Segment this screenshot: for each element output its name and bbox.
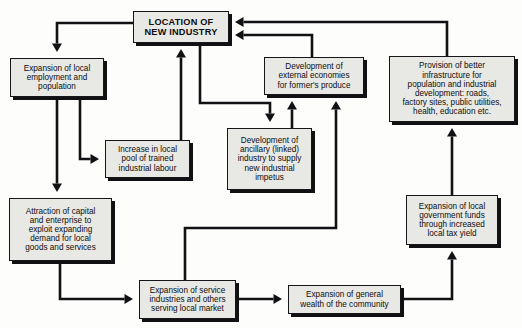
node-location-of-new-industry[interactable]: LOCATION OF NEW INDUSTRY [133,11,229,43]
arrowhead [331,101,341,110]
arrowhead [287,101,297,110]
edge-govfunds-to-infrastructure [447,128,457,195]
arrowhead [274,294,283,304]
node-label: Development of external economies for fo… [268,62,360,90]
edge-employment-to-capital [52,100,62,192]
node-expansion-of-local-employment[interactable]: Expansion of local employment and popula… [10,58,104,97]
node-provision-of-better-infrastructure[interactable]: Provision of better infrastructure for p… [389,56,515,122]
node-label: LOCATION OF NEW INDUSTRY [137,17,225,38]
edge-capital-to-services [60,261,133,304]
edge-line [200,43,270,114]
edge-line [60,261,125,299]
node-label: Development of ancillary (linked) indust… [231,136,308,182]
node-label: Attraction of capital and enterprise to … [13,207,108,253]
arrowhead [235,30,244,40]
edge-line [244,35,313,57]
arrowhead [52,44,62,53]
edge-infrastructure-to-location [235,17,447,56]
node-increase-in-local-pool-of-trained-labour[interactable]: Increase in local pool of trained indust… [105,140,190,178]
node-label: Expansion of service industries and othe… [143,286,232,314]
node-development-of-ancillary-industry[interactable]: Development of ancillary (linked) indust… [227,128,312,190]
arrowhead [176,49,186,58]
node-label: Expansion of local government funds thro… [410,202,494,239]
edge-labour-to-location [176,49,186,140]
arrowhead [52,184,62,193]
edge-line [57,23,133,44]
edge-line [244,22,448,56]
arrowhead [447,251,457,260]
edge-employment-to-labour [80,100,99,164]
edge-location-to-employment [52,23,133,52]
arrowhead [265,114,275,123]
edge-line [401,260,452,300]
arrowhead [447,128,457,137]
node-label: Expansion of general wealth of the commu… [292,290,397,308]
edge-line [80,100,91,159]
flowchart-canvas: LOCATION OF NEW INDUSTRYExpansion of loc… [0,0,522,328]
node-expansion-of-service-industries[interactable]: Expansion of service industries and othe… [139,280,236,319]
arrowhead [91,154,100,164]
edge-ancillary-to-external [287,101,297,128]
edge-wealth-to-govfunds [401,251,457,299]
node-label: Increase in local pool of trained indust… [109,145,186,173]
node-attraction-of-capital-and-enterprise[interactable]: Attraction of capital and enterprise to … [9,198,112,261]
node-label: Expansion of local employment and popula… [14,64,100,92]
node-development-of-external-economies[interactable]: Development of external economies for fo… [264,57,364,95]
node-expansion-of-local-government-funds[interactable]: Expansion of local government funds thro… [406,195,498,245]
edge-external-to-location [235,30,312,57]
node-expansion-of-general-wealth[interactable]: Expansion of general wealth of the commu… [288,285,401,314]
arrowhead [125,294,134,304]
node-label: Provision of better infrastructure for p… [393,61,511,116]
edge-services-to-wealth [239,294,282,304]
arrowhead [235,17,244,27]
